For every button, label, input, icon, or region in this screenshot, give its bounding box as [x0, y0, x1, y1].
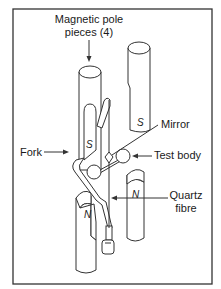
pole-label-upper-left: S [86, 139, 93, 150]
svg-text:Quartz: Quartz [169, 189, 202, 201]
svg-text:Fork: Fork [20, 146, 43, 158]
test-body-left [87, 165, 101, 179]
pole-face-upper-left: S [84, 104, 96, 160]
svg-text:Magnetic pole: Magnetic pole [55, 13, 124, 25]
pole-label-lower-left: N [84, 209, 92, 220]
svg-text:Test body: Test body [154, 149, 202, 161]
svg-text:pieces (4): pieces (4) [65, 26, 113, 38]
svg-text:Mirror: Mirror [161, 118, 190, 130]
pole-label-upper-right: S [137, 117, 144, 128]
pole-piece-lower-right: N [127, 170, 144, 241]
svg-text:fibre: fibre [175, 202, 196, 214]
pole-piece-upper-right: S [128, 42, 150, 132]
torsion-balance-diagram: S S N N [0, 0, 221, 289]
